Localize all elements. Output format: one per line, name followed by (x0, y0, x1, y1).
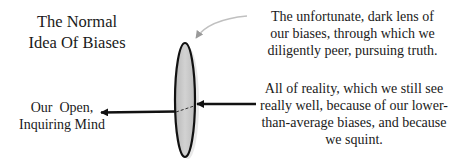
reality-label-line-3: than-average biases, and because (248, 114, 460, 131)
mind-label-line-2: Inquiring Mind (12, 116, 112, 133)
lens-label: The unfortunate, dark lens of our biases… (245, 8, 460, 59)
mind-label: Our Open, Inquiring Mind (12, 99, 112, 133)
lens-label-line-3: diligently peer, pursuing truth. (245, 42, 460, 59)
reality-label-line-2: really well, because of our lower- (248, 97, 460, 114)
reality-label-line-4: we squint. (248, 131, 460, 148)
mind-arrow (101, 112, 176, 113)
reality-label: All of reality, which we still see reall… (248, 80, 460, 148)
title-line-1: The Normal (12, 11, 142, 32)
diagram-title: The Normal Idea Of Biases (12, 11, 142, 53)
mind-label-line-1: Our Open, (12, 99, 112, 116)
bias-lens (175, 43, 195, 157)
lens-label-line-2: our biases, through which we (245, 25, 460, 42)
lens-label-line-1: The unfortunate, dark lens of (245, 8, 460, 25)
pointer-arrow (196, 16, 247, 38)
title-line-2: Idea Of Biases (12, 32, 142, 53)
reality-label-line-1: All of reality, which we still see (248, 80, 460, 97)
